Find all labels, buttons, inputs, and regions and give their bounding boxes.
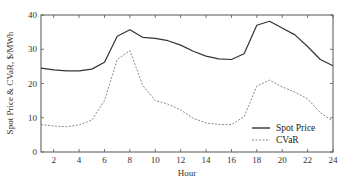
x-tick-label: 22 xyxy=(303,155,312,165)
x-tick-label: 14 xyxy=(202,155,212,165)
series-layer xyxy=(41,21,333,127)
legend-label-cvar: CVaR xyxy=(276,135,299,145)
x-tick-label: 20 xyxy=(278,155,288,165)
y-tick-label: 40 xyxy=(28,10,38,20)
x-tick-label: 6 xyxy=(102,155,107,165)
legend: Spot Price CVaR xyxy=(252,123,315,145)
x-tick-label: 10 xyxy=(151,155,161,165)
series-spot-price xyxy=(41,21,333,71)
series-cvar xyxy=(41,51,333,127)
x-tick-label: 2 xyxy=(51,155,56,165)
legend-label-spot-price: Spot Price xyxy=(276,123,315,133)
x-tick-label: 18 xyxy=(252,155,262,165)
chart: 24681012141618202224 010203040 Hour Spot… xyxy=(0,0,353,187)
x-axis-label: Hour xyxy=(178,168,197,178)
x-tick-label: 16 xyxy=(227,155,237,165)
x-tick-label: 4 xyxy=(77,155,82,165)
y-tick-label: 10 xyxy=(28,113,38,123)
x-tick-label: 8 xyxy=(128,155,133,165)
x-tick-label: 24 xyxy=(329,155,339,165)
y-tick-label: 0 xyxy=(33,147,38,157)
y-tick-label: 20 xyxy=(28,79,38,89)
y-tick-label: 30 xyxy=(28,44,38,54)
x-tick-label: 12 xyxy=(176,155,185,165)
y-axis-label: Spot Price & CVaR, $/MWh xyxy=(5,31,15,134)
